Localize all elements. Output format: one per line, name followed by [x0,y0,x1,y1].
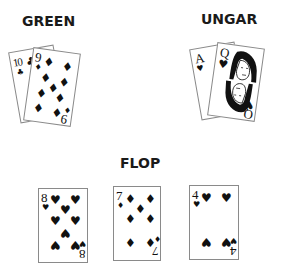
card-rank: 4 [230,245,237,257]
card-rank: 8 [79,248,86,260]
heart-icon: ♥ [201,192,212,204]
heart-icon: ♥ [221,192,232,204]
diamond-icon: ♦ [43,56,55,69]
heart-icon: ♥ [79,239,86,247]
diamond-icon: ♦ [61,60,73,73]
heart-icon: ♥ [230,236,237,244]
heart-icon: ♥ [201,236,212,248]
diamond-icon: ♦ [125,213,136,225]
heart-icon: ♥ [50,239,61,251]
card-rank: Q [243,107,254,120]
heart-icon: ♥ [70,215,81,227]
diamond-icon: ♦ [58,76,70,89]
board-label-flop: FLOP [120,155,160,171]
heart-icon: ♥ [193,201,200,209]
queen-portrait-icon [219,49,263,115]
card-queen-hearts: Q ♥ ♥ Q [207,42,265,122]
card-7-diamonds: 7 ♦ ♦ ♦ ♦ ♦ ♦ ♦ ♦ ♦ 7 [113,186,161,261]
diamond-icon: ♦ [145,213,156,225]
heart-icon: ♥ [70,194,81,206]
card-rank: 9 [60,113,68,126]
card-9-diamonds: 9 ♦ ♦ ♦ ♦ ♦ ♦ ♦ ♦ ♦ ♦ ♦ 9 [23,47,81,127]
card-rank: 7 [152,245,159,257]
heart-icon: ♥ [196,64,204,73]
diamond-icon: ♦ [35,87,47,100]
diamond-icon: ♦ [154,236,161,244]
heart-icon: ♥ [42,204,49,212]
diamond-icon: ♦ [145,193,156,205]
card-4-hearts: 4 ♥ ♥ ♥ ♥ ♥ ♥ 4 [189,185,239,260]
club-icon: ♣ [16,68,24,77]
player-label-green: GREEN [22,13,75,29]
player-label-ungar: UNGAR [201,11,257,27]
diamond-icon: ♦ [54,92,66,105]
diamond-icon: ♦ [32,102,44,115]
diamond-icon: ♦ [125,237,136,249]
diamond-icon: ♦ [117,202,124,210]
card-8-hearts: 8 ♥ ♥ ♥ ♥ ♥ ♥ ♥ ♥ ♥ ♥ 8 [38,188,88,263]
